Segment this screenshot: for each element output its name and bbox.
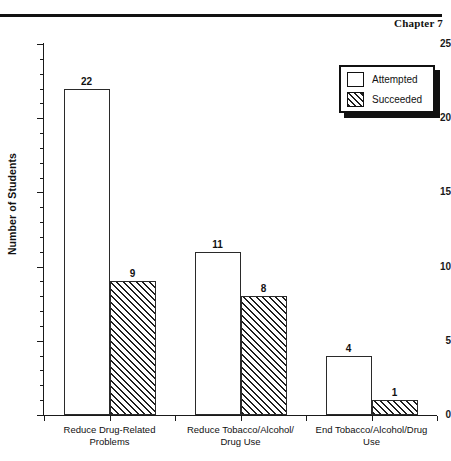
chapter-label: Chapter 7	[394, 17, 443, 29]
y-tick-minor	[40, 163, 43, 164]
y-tick-minor	[40, 89, 43, 90]
bar-succeeded-group1: 9	[110, 281, 156, 415]
x-tick	[306, 416, 307, 421]
x-tick	[175, 416, 176, 421]
y-axis-title: Number of Students	[6, 129, 18, 279]
y-tick-minor	[40, 103, 43, 104]
bar-value-label: 9	[111, 269, 155, 282]
y-tick-minor	[40, 178, 43, 179]
y-tick-minor	[40, 148, 43, 149]
bar-value-label: 4	[327, 344, 371, 357]
bar-succeeded-group3: 1	[372, 400, 418, 415]
y-tick-minor	[40, 281, 43, 282]
y-tick-minor	[40, 222, 43, 223]
category-label-line: End Tobacco/Alcohol/Drug	[300, 424, 443, 436]
bar-value-label: 22	[65, 77, 109, 90]
x-tick	[241, 416, 242, 421]
hatched-square-icon	[347, 92, 364, 107]
y-tick-minor	[40, 311, 43, 312]
category-label-3: End Tobacco/Alcohol/DrugUse	[300, 424, 443, 447]
bar-attempted-group3: 4	[326, 356, 372, 415]
category-label-1: Reduce Drug-RelatedProblems	[38, 424, 181, 447]
open-square-icon	[347, 72, 364, 87]
y-tick-major	[37, 44, 43, 45]
y-tick-major	[37, 192, 43, 193]
category-label-line: Reduce Drug-Related	[38, 424, 181, 436]
x-tick	[44, 416, 45, 421]
y-tick-minor	[40, 400, 43, 401]
header-rule	[0, 14, 442, 17]
bar-value-label: 11	[196, 240, 240, 253]
y-tick-minor	[40, 133, 43, 134]
y-tick-major	[37, 415, 43, 416]
legend-label-succeeded: Succeeded	[372, 94, 422, 106]
y-tick-minor	[40, 370, 43, 371]
y-tick-minor	[40, 296, 43, 297]
bar-chart: 0510152025 Number of Students 22911841 R…	[0, 30, 451, 461]
y-tick-minor	[40, 326, 43, 327]
legend-label-attempted: Attempted	[372, 74, 418, 86]
bar-value-label: 8	[242, 284, 286, 297]
y-tick-major	[37, 118, 43, 119]
y-tick-minor	[40, 207, 43, 208]
x-tick	[437, 416, 438, 421]
page-header: Chapter 7	[0, 0, 451, 30]
chart-legend: Attempted Succeeded	[339, 65, 435, 113]
y-tick-major	[37, 341, 43, 342]
category-label-line: Use	[300, 436, 443, 448]
x-tick	[110, 416, 111, 421]
bar-value-label: 1	[373, 388, 417, 401]
legend-entry-attempted: Attempted	[347, 70, 433, 90]
category-label-2: Reduce Tobacco/Alcohol/Drug Use	[169, 424, 312, 447]
bar-attempted-group2: 11	[195, 252, 241, 415]
y-tick-minor	[40, 237, 43, 238]
category-label-line: Problems	[38, 436, 181, 448]
category-label-line: Drug Use	[169, 436, 312, 448]
legend-entry-succeeded: Succeeded	[347, 90, 433, 110]
y-tick-minor	[40, 74, 43, 75]
y-tick-minor	[40, 59, 43, 60]
category-label-line: Reduce Tobacco/Alcohol/	[169, 424, 312, 436]
y-tick-minor	[40, 356, 43, 357]
y-tick-minor	[40, 252, 43, 253]
y-tick-major	[37, 267, 43, 268]
bar-succeeded-group2: 8	[241, 296, 287, 415]
x-tick	[372, 416, 373, 421]
bar-attempted-group1: 22	[64, 89, 110, 415]
y-tick-minor	[40, 385, 43, 386]
